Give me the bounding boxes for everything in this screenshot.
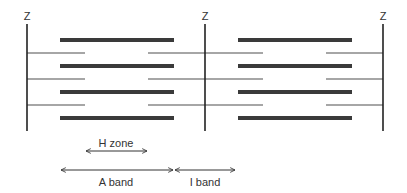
sarcomere-diagram: Z Z Z H zone A band I band — [0, 0, 407, 193]
a-band-label: A band — [99, 176, 133, 188]
z-label-right: Z — [380, 10, 387, 22]
i-band-label: I band — [190, 176, 221, 188]
z-label-left: Z — [24, 10, 31, 22]
h-zone-label: H zone — [99, 137, 134, 149]
z-label-middle: Z — [202, 10, 209, 22]
